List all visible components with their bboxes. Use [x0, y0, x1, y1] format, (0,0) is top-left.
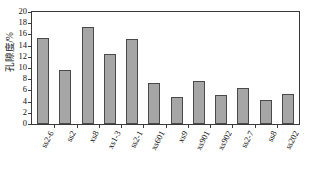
y-axis-tick-label: 2 — [23, 107, 27, 118]
bar — [282, 94, 294, 124]
y-axis-tick-mark — [28, 124, 32, 125]
bar-series — [32, 12, 299, 124]
bar — [237, 88, 249, 124]
y-axis-tick-label: 0 — [23, 118, 27, 129]
y-axis-tick-label: 14 — [19, 40, 28, 51]
bar — [37, 38, 49, 124]
y-axis-tick-label: 10 — [19, 62, 28, 73]
bar — [215, 95, 227, 124]
x-axis-tick-mark — [121, 124, 122, 128]
x-axis-tick-mark — [99, 124, 100, 128]
y-axis-tick-label: 16 — [19, 28, 28, 39]
y-axis-tick-label: 4 — [23, 96, 27, 107]
y-axis-tick-label: 20 — [19, 6, 28, 17]
y-axis-tick-label: 6 — [23, 84, 27, 95]
bar — [82, 27, 94, 124]
bar — [104, 54, 116, 124]
bar — [148, 83, 160, 124]
bar — [171, 97, 183, 124]
bar — [193, 81, 205, 124]
porosity-bar-chart-figure: 孔隙度/% 02468101214161820 ss2-6ss2xs8xs1-3… — [0, 0, 312, 174]
x-axis-tick-mark — [54, 124, 55, 128]
bar — [260, 100, 272, 124]
y-axis-title: 孔隙度/% — [4, 20, 16, 84]
x-axis-tick-mark — [166, 124, 167, 128]
x-axis-tick-mark — [143, 124, 144, 128]
y-axis-tick-label: 8 — [23, 73, 27, 84]
x-axis-tick-mark — [77, 124, 78, 128]
y-axis-tick-label: 18 — [19, 17, 28, 28]
x-axis-tick-mark — [255, 124, 256, 128]
y-axis-tick-label: 12 — [19, 51, 28, 62]
x-axis-tick-mark — [277, 124, 278, 128]
x-axis-tick-mark — [232, 124, 233, 128]
x-axis-tick-mark — [210, 124, 211, 128]
x-axis-tick-mark — [188, 124, 189, 128]
bar — [59, 70, 71, 124]
bar — [126, 39, 138, 124]
plot-area: 02468101214161820 — [31, 11, 300, 125]
